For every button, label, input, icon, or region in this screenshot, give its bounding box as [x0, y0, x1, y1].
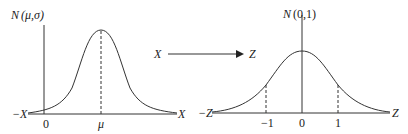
arrow-head-icon: [236, 50, 244, 58]
right-neg-z-label: −Z: [198, 106, 213, 120]
normal-standardization-diagram: N(μ,σ) −X X 0 μ X Z N(0,1) −Z Z −1 0 1: [0, 0, 408, 134]
right-bell-curve: [212, 51, 390, 112]
left-plot-title: N(μ,σ): [10, 8, 44, 22]
transform-from-label: X: [153, 47, 162, 61]
right-pos-z-label: Z: [392, 106, 399, 120]
right-tick-zero: 0: [299, 116, 305, 130]
right-plot-title: N(0,1): [282, 7, 316, 21]
right-tick-neg1: −1: [261, 116, 274, 130]
right-standard-normal-plot: N(0,1) −Z Z −1 0 1: [198, 7, 399, 130]
left-normal-plot: N(μ,σ) −X X 0 μ: [10, 8, 186, 131]
left-tick-zero: 0: [43, 117, 49, 131]
left-neg-x-label: −X: [12, 107, 28, 121]
right-tick-pos1: 1: [335, 116, 341, 130]
transform-arrow-group: X Z: [153, 47, 256, 61]
left-bell-curve: [28, 30, 177, 113]
transform-to-label: Z: [249, 47, 256, 61]
left-pos-x-label: X: [177, 107, 186, 121]
left-tick-mu: μ: [97, 117, 104, 131]
